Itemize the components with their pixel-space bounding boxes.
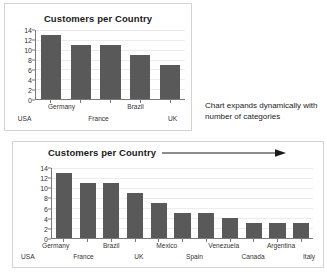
x-axis-label-slot: USA (14, 254, 42, 261)
x-axis-label-slot: Canada (239, 254, 267, 261)
y-axis-tick-mark (32, 70, 35, 71)
bar-italy[interactable] (293, 223, 309, 238)
x-axis-label-slot: UK (125, 254, 153, 261)
x-axis-label-slot: Germany (43, 116, 80, 123)
x-axis-label-usa: USA (14, 254, 42, 261)
bar-slot (99, 168, 123, 238)
chart-panel-top: Customers per Country 02468101214 USAGer… (4, 3, 192, 131)
x-axis-label-slot: Argentina (267, 243, 295, 250)
x-axis-label-slot: Mexico (153, 243, 181, 250)
x-axis-tick-mark (206, 239, 207, 242)
bar-mexico[interactable] (174, 213, 190, 238)
bar-germany[interactable] (71, 45, 91, 99)
bar-france[interactable] (103, 183, 119, 238)
x-axis-label-france: France (80, 116, 117, 123)
x-axis-label-slot: France (70, 243, 98, 250)
y-axis-tick-mark (32, 40, 35, 41)
y-axis-tick-mark (48, 188, 51, 189)
x-axis-tick (96, 100, 126, 103)
y-axis-tick-mark (32, 60, 35, 61)
bar-slot (194, 168, 218, 238)
expand-arrow-icon (162, 148, 288, 158)
bar-slot (66, 30, 96, 99)
x-axis-label-slot: Brazil (97, 243, 125, 250)
plot-area-top: 02468101214 (35, 30, 185, 100)
x-axis-tick-mark (110, 100, 111, 103)
x-axis-label-germany: Germany (43, 104, 80, 111)
x-axis-label-slot: Brazil (117, 116, 154, 123)
x-axis-tick-mark (135, 239, 136, 242)
x-axis-label-slot: UK (154, 104, 191, 111)
bar-germany[interactable] (80, 183, 96, 238)
y-axis-tick-mark (48, 228, 51, 229)
x-axis-label-slot: France (80, 116, 117, 123)
x-axis-label-slot: Argentina (267, 254, 295, 261)
bar-slot (125, 30, 155, 99)
x-axis-labels-top-upper: USAGermanyFranceBrazilUK (6, 104, 191, 111)
chart-title-bottom: Customers per Country (48, 147, 156, 158)
x-axis-tick-mark (170, 100, 171, 103)
x-axis-tick-mark (182, 239, 183, 242)
x-axis-tick (242, 239, 266, 242)
bar-slot (96, 30, 126, 99)
chart-title-top: Customers per Country (5, 13, 191, 24)
x-axis-label-usa: USA (6, 116, 43, 123)
x-axis-label-slot: France (80, 104, 117, 111)
bar-venezuela[interactable] (222, 218, 238, 238)
bar-slot (76, 168, 100, 238)
x-axis-label-slot: Germany (42, 254, 70, 261)
x-axis-tick (123, 239, 147, 242)
bar-usa[interactable] (56, 173, 72, 238)
y-axis-tick-mark (32, 100, 35, 101)
bar-slot (242, 168, 266, 238)
y-axis-tick-mark (48, 218, 51, 219)
x-axis-label-slot: Germany (43, 104, 80, 111)
bar-uk[interactable] (151, 203, 167, 238)
x-axis-label-brazil: Brazil (97, 243, 125, 250)
annotation-text: Chart expands dynamically with number of… (205, 100, 323, 123)
bar-slot (289, 168, 313, 238)
bar-slot (36, 30, 66, 99)
x-axis-label-slot: Spain (181, 254, 209, 261)
bar-canada[interactable] (246, 223, 262, 238)
x-axis-label-slot: UK (154, 116, 191, 123)
bar-slot (171, 168, 195, 238)
bar-france[interactable] (100, 45, 120, 99)
x-axis-label-slot: UK (125, 243, 153, 250)
y-axis-tick-mark (32, 30, 35, 31)
bar-uk[interactable] (160, 65, 180, 100)
x-axis-label-slot: Venezuela (208, 243, 239, 250)
x-axis-label-slot: Italy (295, 254, 323, 261)
x-axis-label-uk: UK (154, 116, 191, 123)
bar-brazil[interactable] (127, 193, 143, 238)
x-axis-label-spain: Spain (181, 254, 209, 261)
x-axis-label-germany: Germany (42, 243, 70, 250)
y-axis-tick-mark (32, 50, 35, 51)
bar-brazil[interactable] (130, 55, 150, 99)
x-axis-label-canada: Canada (239, 254, 267, 261)
x-axis-label-italy: Italy (295, 254, 323, 261)
bar-series-bottom (52, 168, 313, 238)
y-axis-tick-mark (48, 178, 51, 179)
bar-slot (147, 168, 171, 238)
x-axis-tick (76, 239, 100, 242)
bar-spain[interactable] (198, 213, 214, 238)
x-axis-label-slot: Italy (295, 243, 323, 250)
bar-slot (123, 168, 147, 238)
y-axis-tick-mark (48, 208, 51, 209)
x-axis-label-slot: USA (6, 116, 43, 123)
bar-series-top (36, 30, 185, 99)
bar-argentina[interactable] (269, 223, 285, 238)
x-axis-label-argentina: Argentina (267, 243, 295, 250)
x-axis-label-slot: Spain (181, 243, 209, 250)
bar-slot (155, 30, 185, 99)
x-axis-label-slot: Brazil (97, 254, 125, 261)
x-axis-label-slot: USA (6, 104, 43, 111)
x-axis-label-slot: France (70, 254, 98, 261)
bar-usa[interactable] (41, 35, 61, 99)
x-axis-label-slot: Germany (42, 243, 70, 250)
x-axis-label-slot: Mexico (153, 254, 181, 261)
bar-slot (52, 168, 76, 238)
y-axis-tick-mark (48, 239, 51, 240)
chart-panel-bottom: Customers per Country 02468101214 USAGer… (12, 141, 324, 268)
